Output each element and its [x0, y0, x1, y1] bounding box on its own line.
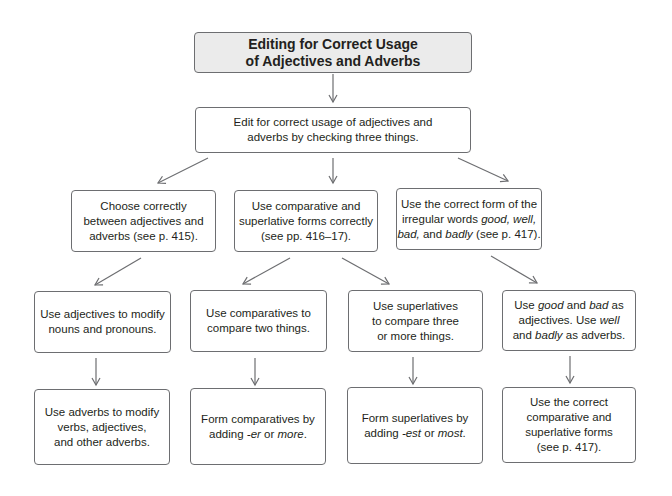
italic-good: good	[538, 299, 564, 311]
text: .	[463, 427, 466, 439]
correct-forms-line-4: (see p. 417).	[525, 440, 613, 455]
italic-est: -est	[402, 427, 421, 439]
comparatives-line-1: Use comparatives to	[206, 306, 311, 321]
italic-er: -er	[247, 428, 261, 440]
choose-line-1: Choose correctly	[83, 199, 203, 214]
title-line-1: Editing for Correct Usage	[246, 36, 421, 53]
choose-line-2: between adjectives and	[83, 214, 203, 229]
text: .	[304, 428, 307, 440]
italic-bad: bad	[589, 299, 608, 311]
italic-bad: bad,	[397, 228, 419, 240]
form-superlatives-box: Form superlatives by adding -est or most…	[347, 387, 483, 464]
text: and	[564, 299, 590, 311]
adverbs-line-2: verbs, adjectives,	[45, 420, 159, 435]
good-bad-well-badly-box: Use good and bad as adjectives. Use well…	[502, 290, 636, 351]
text: Use	[514, 299, 538, 311]
intro-line-2: adverbs by checking three things.	[234, 130, 433, 145]
intro-line-1: Edit for correct usage of adjectives and	[234, 115, 433, 130]
title-line-2: of Adjectives and Adverbs	[246, 53, 421, 70]
adverbs-line-3: and other adverbs.	[45, 435, 159, 450]
irregular-italic-words: good, well,	[481, 213, 536, 225]
use-comparatives-box: Use comparatives to compare two things.	[190, 290, 327, 352]
superlatives-line-2: to compare three	[372, 314, 459, 329]
choose-correctly-box: Choose correctly between adjectives and …	[71, 190, 216, 252]
arrow-irregular-to-good-bad	[491, 256, 537, 283]
use-adjectives-box: Use adjectives to modify nouns and prono…	[34, 291, 171, 353]
correct-forms-line-2: comparative and	[525, 410, 613, 425]
good-bad-line-3: and badly as adverbs.	[513, 328, 626, 343]
italic-most: most	[438, 427, 463, 439]
use-adverbs-box: Use adverbs to modify verbs, adjectives,…	[34, 389, 170, 465]
text: or	[261, 428, 278, 440]
comparative-line-3: (see pp. 416–17).	[239, 229, 373, 244]
correct-forms-line-3: superlative forms	[525, 425, 613, 440]
irregular-line-1: Use the correct form of the	[397, 197, 540, 212]
choose-line-3: adverbs (see p. 415).	[83, 229, 203, 244]
arrow-comparative-to-superlatives	[342, 258, 389, 284]
arrow-intro-to-choose	[158, 158, 208, 183]
text: and	[513, 329, 535, 341]
text: or	[421, 427, 438, 439]
text: adding	[364, 427, 402, 439]
comparative-line-1: Use comparative and	[239, 199, 373, 214]
correct-forms-box: Use the correct comparative and superlat…	[502, 387, 636, 463]
irregular-words-box: Use the correct form of the irregular wo…	[396, 188, 542, 250]
comparative-superlative-box: Use comparative and superlative forms co…	[234, 190, 378, 252]
italic-badly: badly	[535, 329, 563, 341]
form-comparatives-line-1: Form comparatives by	[201, 412, 315, 427]
adverbs-line-1: Use adverbs to modify	[45, 405, 159, 420]
text: as	[608, 299, 623, 311]
form-comparatives-line-2: adding -er or more.	[201, 427, 315, 442]
italic-well: well	[600, 314, 620, 326]
text: adding	[209, 428, 247, 440]
arrow-intro-to-irregular	[458, 158, 508, 181]
irregular-line-3: bad, and badly (see p. 417).	[397, 227, 540, 242]
comparative-line-2: superlative forms correctly	[239, 214, 373, 229]
superlatives-line-1: Use superlatives	[372, 299, 459, 314]
text: adjectives. Use	[518, 314, 599, 326]
irregular-line-2: irregular words good, well,	[397, 212, 540, 227]
good-bad-line-1: Use good and bad as	[513, 298, 626, 313]
good-bad-line-2: adjectives. Use well	[513, 313, 626, 328]
form-comparatives-box: Form comparatives by adding -er or more.	[190, 388, 326, 465]
title-box: Editing for Correct Usage of Adjectives …	[194, 32, 472, 73]
correct-forms-line-1: Use the correct	[525, 395, 613, 410]
adjectives-line-1: Use adjectives to modify	[40, 307, 165, 322]
flowchart: Editing for Correct Usage of Adjectives …	[0, 0, 672, 496]
arrow-comparative-to-comparatives	[243, 258, 290, 284]
adjectives-line-2: nouns and pronouns.	[40, 322, 165, 337]
form-superlatives-line-2: adding -est or most.	[362, 426, 469, 441]
italic-more: more	[278, 428, 304, 440]
use-superlatives-box: Use superlatives to compare three or mor…	[348, 290, 483, 352]
superlatives-line-3: or more things.	[372, 329, 459, 344]
page-ref: (see p. 417).	[473, 228, 541, 240]
irregular-text: irregular words	[402, 213, 481, 225]
comparatives-line-2: compare two things.	[206, 321, 311, 336]
intro-box: Edit for correct usage of adjectives and…	[195, 107, 471, 153]
text: as adverbs.	[563, 329, 626, 341]
text-and: and	[420, 228, 446, 240]
italic-badly: badly	[445, 228, 473, 240]
arrow-choose-to-adjectives	[95, 258, 141, 285]
form-superlatives-line-1: Form superlatives by	[362, 411, 469, 426]
